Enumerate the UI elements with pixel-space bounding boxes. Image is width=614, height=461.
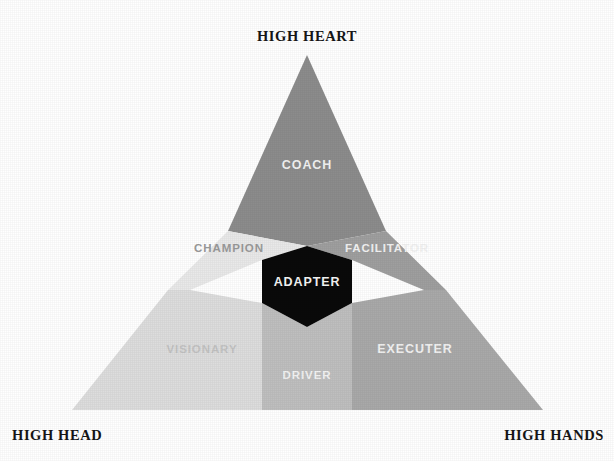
zone-label-coach: COACH [282,158,332,172]
zone-label-facilitator: FACILITATOR [345,242,429,254]
zone-label-champion: CHAMPION [194,242,264,254]
zone-label-adapter: ADAPTER [274,275,341,289]
corner-label-high-hands: HIGH HANDS [504,427,604,444]
zone-label-driver: DRIVER [283,369,332,381]
corner-label-high-head: HIGH HEAD [12,427,102,444]
triangle-diagram: COACH CHAMPION FACILITATOR VISIONARY DRI… [0,0,614,461]
zone-coach[interactable] [228,55,386,246]
triangle-canvas: COACH CHAMPION FACILITATOR VISIONARY DRI… [0,0,614,461]
zone-label-executer: EXECUTER [377,342,452,356]
zone-label-visionary: VISIONARY [167,343,238,355]
corner-label-high-heart: HIGH HEART [0,28,614,45]
